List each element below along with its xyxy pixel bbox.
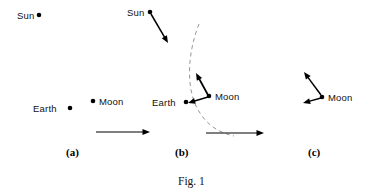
moon-label-a: Moon	[99, 97, 124, 107]
figure-container: SunEarthMoon(a)SunEarthMoon(b)Moon(c) Fi…	[0, 0, 366, 194]
panel-label-c: (c)	[308, 147, 320, 158]
sun-dot-b	[148, 10, 153, 15]
flow-arrow-a-to-b-head	[143, 129, 151, 135]
moon-label-c: Moon	[328, 93, 353, 103]
moon-label-b: Moon	[215, 92, 240, 102]
sun-label-a: Sun	[17, 11, 35, 21]
moon-radial-vector-c-shaft	[309, 98, 321, 101]
moon-to-earth-vector-b-shaft	[194, 97, 208, 101]
sun-label-b: Sun	[127, 8, 145, 18]
moon-tangential-vector-c-shaft	[308, 77, 321, 95]
figure-vector-layer	[0, 0, 366, 194]
moon-tangential-vector-b-shaft	[199, 78, 208, 95]
earth-label-b: Earth	[152, 98, 176, 108]
earth-label-a: Earth	[33, 104, 57, 114]
moon-to-earth-vector-b-head	[188, 98, 196, 104]
earth-dot-a	[68, 106, 73, 111]
moon-dot-a	[91, 99, 96, 104]
sun-force-vector-b-shaft	[151, 14, 165, 38]
sun-dot-a	[37, 13, 42, 18]
earth-dot-b	[184, 100, 189, 105]
flow-arrow-b-to-c-head	[257, 130, 265, 136]
panel-label-b: (b)	[175, 147, 188, 158]
panel-label-a: (a)	[66, 147, 79, 158]
moon-dot-b	[207, 94, 212, 99]
moon-dot-c	[320, 95, 325, 100]
moon-orbit-arc-b	[190, 24, 234, 136]
moon-radial-vector-c-head	[303, 98, 311, 104]
figure-caption: Fig. 1	[178, 176, 205, 188]
